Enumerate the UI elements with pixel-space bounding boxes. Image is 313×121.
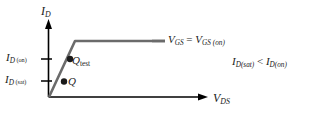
y-axis-label-subscript: D bbox=[45, 10, 51, 19]
figure-container: ID VDS ID (on) ID (sat) Qtest Q VGS = VG… bbox=[0, 0, 313, 121]
inequality-right-subscript: D(on) bbox=[270, 61, 287, 69]
tick-label-id-sat-sub-paren: (sat) bbox=[14, 79, 26, 85]
annotation-q-test-subscript: test bbox=[80, 60, 90, 68]
vgs-lhs-symbol: V bbox=[168, 33, 175, 45]
annotation-q-test: Qtest bbox=[72, 55, 90, 68]
inequality-operator: < bbox=[254, 55, 266, 67]
tick-label-id-on: ID (on) bbox=[6, 52, 27, 65]
x-axis-label-subscript: DS bbox=[220, 97, 230, 106]
y-axis-label: ID bbox=[41, 5, 51, 19]
tick-label-id-on-sub-paren: (on) bbox=[15, 57, 27, 63]
inequality-left-subscript: D(sat) bbox=[236, 61, 255, 69]
drain-characteristic-curve bbox=[49, 41, 165, 97]
annotation-q-point-symbol: Q bbox=[68, 75, 76, 87]
annotation-inequality: ID(sat) < ID(on) bbox=[232, 56, 287, 69]
vgs-rhs-subscript: GS (on) bbox=[202, 39, 225, 47]
tick-label-id-sat: ID (sat) bbox=[5, 74, 26, 87]
vgs-equals-sign: = bbox=[184, 33, 196, 45]
annotation-q-point: Q bbox=[68, 76, 76, 87]
x-axis bbox=[49, 94, 209, 101]
vgs-lhs-subscript: GS bbox=[175, 39, 184, 47]
q-point-marker bbox=[61, 78, 67, 84]
y-axis-ticks bbox=[41, 59, 52, 81]
annotation-vgs-equation: VGS = VGS (on) bbox=[168, 34, 225, 47]
y-axis bbox=[45, 19, 52, 97]
x-axis-label: VDS bbox=[213, 92, 230, 106]
annotation-q-test-symbol: Q bbox=[72, 54, 80, 66]
